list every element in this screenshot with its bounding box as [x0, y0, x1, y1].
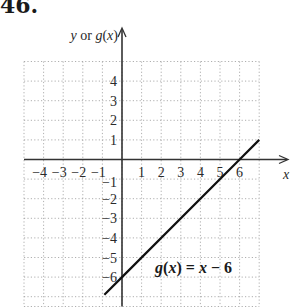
svg-text:4: 4 [110, 74, 117, 89]
svg-text:3: 3 [177, 165, 184, 180]
y-axis-label: y or g(x) [69, 28, 119, 44]
svg-text:1: 1 [138, 165, 145, 180]
svg-text:−3: −3 [102, 211, 117, 226]
svg-text:−4: −4 [102, 231, 117, 246]
svg-text:2: 2 [110, 113, 117, 128]
svg-text:−1: −1 [102, 175, 117, 190]
x-axis-label: x [282, 167, 290, 182]
svg-text:4: 4 [197, 165, 204, 180]
svg-text:1: 1 [110, 133, 117, 148]
equation-label: g(x) = x − 6 [154, 259, 232, 277]
svg-text:−4: −4 [32, 165, 47, 180]
svg-text:−3: −3 [52, 165, 67, 180]
function-graph: −4−3−2−11234564321−1−2−3−4−5−6 y or g(x)… [0, 0, 296, 308]
svg-text:3: 3 [110, 94, 117, 109]
tick-labels: −4−3−2−11234564321−1−2−3−4−5−6 [32, 74, 243, 285]
svg-text:2: 2 [158, 165, 165, 180]
svg-text:−5: −5 [102, 251, 117, 266]
svg-text:6: 6 [236, 165, 243, 180]
svg-text:−2: −2 [71, 165, 86, 180]
svg-text:−2: −2 [102, 192, 117, 207]
